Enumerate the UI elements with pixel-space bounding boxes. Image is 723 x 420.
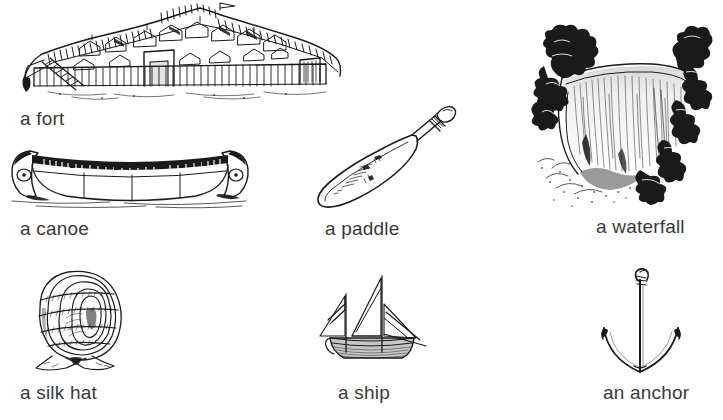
caption-fort: a fort: [20, 108, 65, 130]
item-silk-hat: a silk hat: [0, 258, 200, 420]
item-anchor: an anchor: [560, 262, 723, 420]
anchor-illustration: [594, 266, 694, 378]
fort-illustration: [14, 2, 346, 102]
item-paddle: a paddle: [290, 95, 490, 245]
ship-illustration: [304, 266, 444, 378]
vocabulary-picture-sheet: a fort: [0, 0, 723, 420]
caption-ship: a ship: [338, 382, 390, 404]
item-ship: a ship: [280, 262, 475, 420]
caption-paddle: a paddle: [325, 218, 400, 240]
caption-waterfall: a waterfall: [596, 216, 685, 238]
canoe-illustration: [6, 139, 254, 209]
item-waterfall: a waterfall: [510, 18, 723, 245]
paddle-illustration: [304, 101, 464, 213]
silk-hat-illustration: [22, 264, 142, 376]
caption-anchor: an anchor: [603, 382, 689, 404]
caption-silk-hat: a silk hat: [20, 382, 97, 404]
waterfall-illustration: [526, 22, 711, 212]
item-canoe: a canoe: [0, 135, 290, 245]
caption-canoe: a canoe: [20, 218, 89, 240]
